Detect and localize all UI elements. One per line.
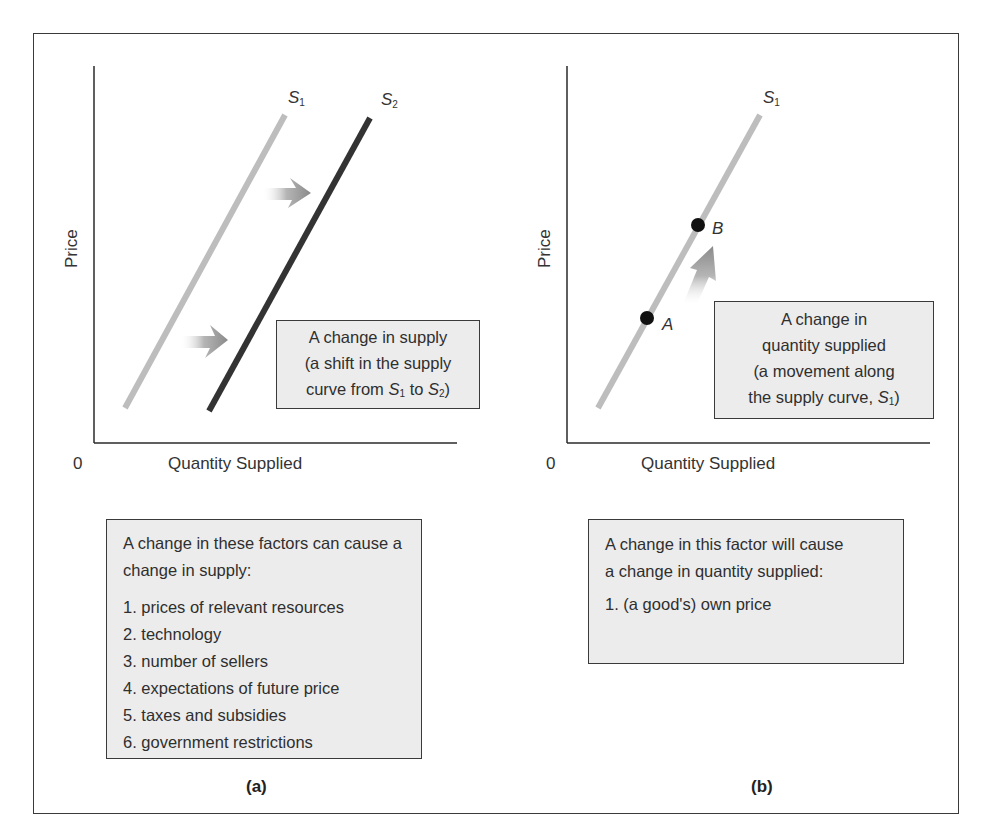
callout-line: (a movement along xyxy=(715,358,933,384)
x-axis-label-a: Quantity Supplied xyxy=(168,454,302,474)
point-a-label: A xyxy=(662,315,673,335)
movement-arrow-icon xyxy=(684,246,716,306)
y-axis-label-b: Price xyxy=(535,229,555,268)
curve-label-s1-b: S1 xyxy=(763,88,780,108)
callout-line: A change in supply xyxy=(277,324,479,350)
factors-box-supply: A change in these factors can cause a ch… xyxy=(106,519,422,759)
callout-change-in-quantity-supplied: A change in quantity supplied (a movemen… xyxy=(714,301,934,419)
point-b-marker xyxy=(691,218,705,232)
factor-item: 4. expectations of future price xyxy=(123,675,405,702)
callout-line: curve from S1 to S2) xyxy=(277,376,479,407)
callout-line: the supply curve, S1) xyxy=(715,384,933,415)
panel-tag-a: (a) xyxy=(246,777,267,797)
callout-line: A change in xyxy=(715,306,933,332)
factor-item: 6. government restrictions xyxy=(123,729,405,756)
shift-arrow-upper-icon xyxy=(262,178,311,208)
factor-item: 3. number of sellers xyxy=(123,648,405,675)
callout-line: (a shift in the supply xyxy=(277,350,479,376)
factor-item: 5. taxes and subsidies xyxy=(123,702,405,729)
factor-item: 2. technology xyxy=(123,621,405,648)
factors-list: 1. prices of relevant resources 2. techn… xyxy=(123,594,405,756)
y-axis-label-a: Price xyxy=(62,229,82,268)
factor-item: 1. prices of relevant resources xyxy=(123,594,405,621)
factors-box-quantity-supplied: A change in this factor will cause a cha… xyxy=(588,519,904,664)
point-a-marker xyxy=(640,311,654,325)
point-b-label: B xyxy=(712,219,723,239)
factors-list: 1. (a good's) own price xyxy=(605,591,887,618)
origin-label-a: 0 xyxy=(73,454,82,474)
curve-label-s2-a: S2 xyxy=(381,90,398,110)
factors-intro: A change in these factors can cause a ch… xyxy=(123,530,405,584)
callout-change-in-supply: A change in supply (a shift in the suppl… xyxy=(276,320,480,409)
panel-tag-b: (b) xyxy=(751,777,773,797)
x-axis-label-b: Quantity Supplied xyxy=(641,454,775,474)
supply-curve-s1-a xyxy=(125,115,285,408)
callout-line: quantity supplied xyxy=(715,332,933,358)
origin-label-b: 0 xyxy=(546,454,555,474)
curve-label-s1-a: S1 xyxy=(288,88,305,108)
factor-item: 1. (a good's) own price xyxy=(605,591,887,618)
factors-intro: A change in this factor will cause a cha… xyxy=(605,531,845,585)
shift-arrow-lower-icon xyxy=(180,325,228,358)
